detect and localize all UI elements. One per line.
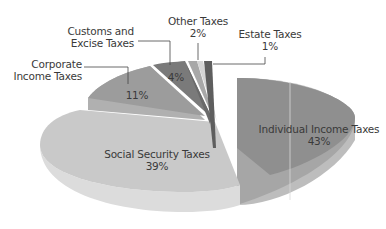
- label-text: Individual Income Taxes: [254, 123, 384, 135]
- pct-customs-excise-taxes: 4%: [164, 71, 188, 83]
- label-text: Excise Taxes: [62, 37, 134, 49]
- label-pct: 1%: [237, 40, 303, 52]
- label-text: Income Taxes: [0, 70, 82, 82]
- label-text: Estate Taxes: [237, 28, 303, 40]
- label-text: Other Taxes: [168, 15, 228, 27]
- label-customs-excise-taxes: Customs and Excise Taxes: [62, 25, 134, 49]
- label-pct: 39%: [102, 160, 212, 172]
- pct-corporate-income-taxes: 11%: [122, 89, 152, 101]
- label-corporate-income-taxes: Corporate Income Taxes: [0, 58, 82, 82]
- label-estate-taxes: Estate Taxes 1%: [237, 28, 303, 52]
- label-individual-income-taxes: Individual Income Taxes 43%: [254, 123, 384, 147]
- label-text: Corporate: [0, 58, 82, 70]
- label-pct: 43%: [254, 135, 384, 147]
- label-social-security-taxes: Social Security Taxes 39%: [102, 148, 212, 172]
- label-text: Social Security Taxes: [102, 148, 212, 160]
- label-other-taxes: Other Taxes 2%: [168, 15, 228, 39]
- label-text: Customs and: [62, 25, 134, 37]
- label-pct: 2%: [168, 27, 228, 39]
